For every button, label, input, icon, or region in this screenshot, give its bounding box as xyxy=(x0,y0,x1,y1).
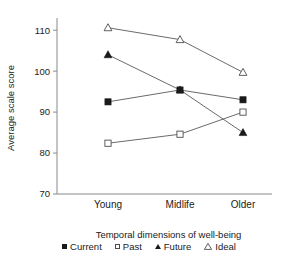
y-tick-label-100: 100 xyxy=(34,66,50,77)
x-axis-title: Temporal dimensions of well-being xyxy=(96,229,242,240)
y-axis-title: Average scale score xyxy=(5,65,16,151)
legend-open-triangle-icon xyxy=(204,243,212,250)
legend-label-current: Current xyxy=(70,242,102,252)
legend-label-past: Past xyxy=(123,242,142,252)
legend-open-square-icon xyxy=(115,244,120,249)
series-line-past xyxy=(108,112,243,143)
marker-filled-triangle-future-older xyxy=(239,129,247,136)
series-line-future xyxy=(108,55,243,133)
figure-caption-partial xyxy=(6,258,292,264)
marker-open-square-past-young xyxy=(105,140,111,146)
marker-filled-square-current-older xyxy=(240,97,246,103)
x-tick-label-midlife: Midlife xyxy=(166,199,195,210)
legend-label-future: Future xyxy=(164,242,191,252)
series-line-current xyxy=(108,90,243,102)
legend-entry-current: Current xyxy=(62,242,102,252)
marker-open-triangle-ideal-young xyxy=(104,24,112,31)
y-tick-label-90: 90 xyxy=(39,106,50,117)
figure-container: 708090100110YoungMidlifeOlderTemporal di… xyxy=(0,0,298,266)
marker-filled-triangle-future-young xyxy=(104,51,112,58)
x-tick-label-young: Young xyxy=(94,199,122,210)
marker-open-triangle-ideal-older xyxy=(239,68,247,75)
legend-entry-ideal: Ideal xyxy=(204,242,236,252)
y-tick-label-110: 110 xyxy=(35,25,50,36)
x-tick-label-older: Older xyxy=(231,199,256,210)
chart-legend: CurrentPastFutureIdeal xyxy=(0,242,298,252)
y-tick-label-70: 70 xyxy=(39,188,50,199)
marker-filled-square-current-young xyxy=(105,99,111,105)
legend-filled-square-icon xyxy=(62,244,67,249)
legend-entry-future: Future xyxy=(155,242,191,252)
line-chart-plot: 708090100110YoungMidlifeOlderTemporal di… xyxy=(0,0,298,266)
chart-axes xyxy=(57,18,272,194)
y-tick-label-80: 80 xyxy=(39,147,50,158)
marker-open-square-past-older xyxy=(240,109,246,115)
legend-label-ideal: Ideal xyxy=(215,242,236,252)
series-line-ideal xyxy=(108,28,243,73)
marker-open-square-past-midlife xyxy=(177,131,183,137)
legend-filled-triangle-icon xyxy=(155,244,161,249)
legend-entry-past: Past xyxy=(115,242,142,252)
